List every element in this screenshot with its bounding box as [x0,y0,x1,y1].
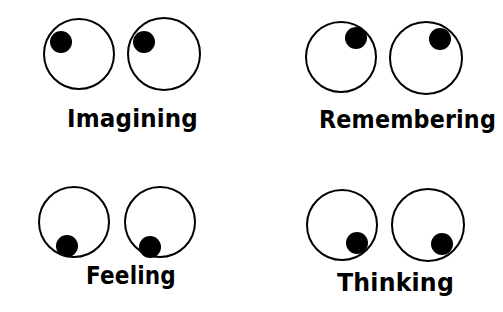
eye-left-imagining [44,19,114,89]
pupil [431,233,453,255]
pupil [346,232,368,254]
eyeball [390,22,462,94]
eye-right-remembering [390,22,462,94]
pupil [50,31,72,53]
panel-imagining [44,18,200,90]
label-feeling: Feeling [86,264,176,288]
pupil [139,236,161,258]
eye-left-thinking [307,190,377,260]
eye-right-thinking [392,189,464,261]
eye-diagram-canvas [0,0,503,312]
label-remembering: Remembering [319,108,496,132]
eye-left-remembering [306,22,376,92]
eye-right-imagining [128,18,200,90]
label-thinking: Thinking [337,271,454,295]
panel-thinking [307,189,464,261]
eyeball [392,189,464,261]
pupil [429,28,451,50]
eyeball [44,19,114,89]
pupil [133,31,155,53]
pupil [56,235,78,257]
eyeball [307,190,377,260]
panel-feeling [39,187,195,258]
panel-remembering [306,22,462,94]
eye-right-feeling [125,187,195,258]
label-imagining: Imagining [67,107,198,131]
pupil [345,27,367,49]
eye-left-feeling [39,187,109,257]
eyeball [128,18,200,90]
